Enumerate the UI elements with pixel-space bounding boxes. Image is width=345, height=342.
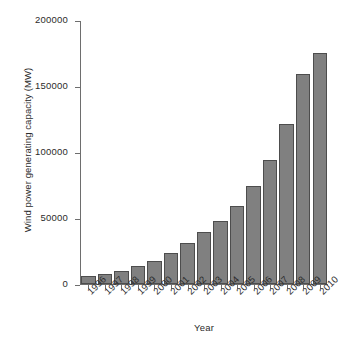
y-axis-tick-label: 50000 xyxy=(41,212,68,223)
bar xyxy=(296,74,311,284)
y-axis-tick-label: 100000 xyxy=(35,146,68,157)
bar-series xyxy=(80,21,328,285)
wind-capacity-bar-chart: Wind power generating capacity (MW) 0500… xyxy=(0,0,345,342)
y-axis-title: Wind power generating capacity (MW) xyxy=(22,10,36,290)
y-axis-tick-label: 150000 xyxy=(35,80,68,91)
y-axis-tick: 0 xyxy=(75,285,80,286)
x-axis-title: Year xyxy=(80,322,328,333)
bar xyxy=(246,186,261,284)
bar xyxy=(279,124,294,284)
bar xyxy=(313,53,328,284)
y-axis-tick-label: 200000 xyxy=(35,14,68,25)
bar xyxy=(230,206,245,284)
y-axis-tick-label: 0 xyxy=(63,278,68,289)
plot-area: 050000100000150000200000 xyxy=(80,21,328,285)
bar xyxy=(263,160,278,284)
